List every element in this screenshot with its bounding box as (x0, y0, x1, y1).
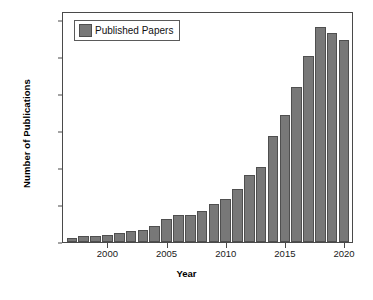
bar-2009 (209, 204, 220, 242)
bar-2008 (197, 211, 208, 242)
bar-2004 (149, 226, 160, 242)
x-tick-label: 2020 (334, 248, 355, 259)
bar-1999 (90, 236, 101, 242)
bar-2014 (268, 136, 279, 242)
bar-2007 (185, 215, 196, 242)
bar-2016 (291, 87, 302, 242)
x-tick-label: 2010 (215, 248, 236, 259)
bar-2002 (126, 231, 137, 242)
bar-2000 (102, 235, 113, 242)
x-tick-label: 2015 (274, 248, 295, 259)
bar-1998 (78, 236, 89, 242)
bars-layer (63, 13, 352, 242)
legend-label-published-papers: Published Papers (95, 25, 173, 36)
x-tick-mark (167, 243, 168, 248)
plot-area (62, 12, 353, 243)
bar-2019 (327, 33, 338, 242)
chart-figure: 020040060080010001200 Number of Publicat… (0, 0, 373, 300)
x-tick-label: 2005 (156, 248, 177, 259)
bar-1997 (67, 238, 78, 242)
bar-2018 (315, 27, 326, 242)
x-tick-mark (107, 243, 108, 248)
bar-2012 (244, 175, 255, 242)
chart-legend: Published Papers (74, 20, 180, 41)
x-tick-mark (226, 243, 227, 248)
x-axis-title: Year (0, 268, 373, 279)
x-tick-label: 2000 (97, 248, 118, 259)
x-tick-mark (285, 243, 286, 248)
bar-2005 (161, 219, 172, 242)
bar-2015 (280, 115, 291, 243)
x-tick-mark (344, 243, 345, 248)
bar-2010 (220, 199, 231, 242)
bar-2006 (173, 215, 184, 242)
bar-2001 (114, 233, 125, 242)
bar-2011 (232, 189, 243, 242)
y-axis-title: Number of Publications (21, 44, 32, 224)
legend-swatch-published-papers (79, 24, 92, 37)
bar-2017 (303, 56, 314, 242)
bar-2020 (339, 40, 350, 242)
bar-2013 (256, 167, 267, 242)
bar-2003 (138, 230, 149, 242)
